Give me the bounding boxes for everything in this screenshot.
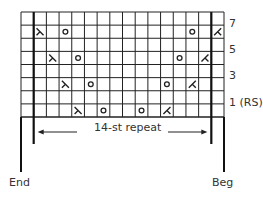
ssk-symbol [49, 54, 56, 61]
row-label-3: 3 [229, 69, 236, 82]
ssk-symbol [37, 28, 44, 35]
yarn-over-symbol [88, 82, 93, 87]
knitting-chart [0, 0, 263, 202]
arrowhead-left-icon [38, 130, 44, 135]
k2tog-symbol [214, 28, 221, 35]
yarn-over-symbol [63, 29, 68, 34]
repeat-label: 14-st repeat [94, 121, 161, 134]
beg-label: Beg [212, 176, 233, 189]
arrowhead-right-icon [201, 130, 207, 135]
yarn-over-symbol [139, 108, 144, 113]
k2tog-symbol [189, 81, 196, 88]
k2tog-symbol [163, 107, 170, 114]
yarn-over-symbol [76, 56, 81, 61]
row-label-7: 7 [229, 17, 236, 30]
yarn-over-symbol [190, 29, 195, 34]
ssk-symbol [75, 107, 82, 114]
yarn-over-symbol [165, 82, 170, 87]
yarn-over-symbol [177, 56, 182, 61]
row-label-1-rs: 1 (RS) [229, 96, 263, 109]
k2tog-symbol [201, 54, 208, 61]
yarn-over-symbol [101, 108, 106, 113]
row-label-5: 5 [229, 43, 236, 56]
ssk-symbol [62, 81, 69, 88]
end-label: End [9, 176, 30, 189]
